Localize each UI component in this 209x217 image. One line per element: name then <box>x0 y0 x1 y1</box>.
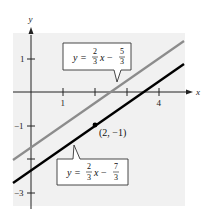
x-tick-label-4: 4 <box>157 98 162 108</box>
callout-top-num1: 2 <box>93 47 97 56</box>
x-tick-label-1: 1 <box>61 98 66 108</box>
callout-bottom-den2: 3 <box>114 173 118 182</box>
callout-top-den1: 3 <box>93 57 97 66</box>
point-label: (2, −1) <box>99 127 126 139</box>
y-axis-label: y <box>28 14 33 24</box>
callout-bottom-lhs: y = <box>66 167 81 178</box>
callout-top-num2: 5 <box>120 47 124 56</box>
callout-bottom-num1: 2 <box>87 162 91 171</box>
callout-top-var: x <box>99 52 105 63</box>
callout-top-den2: 3 <box>120 57 124 66</box>
x-axis-arrow-icon <box>186 90 193 95</box>
callout-bottom-op: − <box>101 167 107 178</box>
x-axis-label: x <box>195 87 200 97</box>
callout-bottom-den1: 3 <box>87 173 91 182</box>
y-tick-label-m1: −1 <box>14 121 24 131</box>
chart: 1 4 x 1 −1 −3 y (2, −1) y = 2 3 x − 5 3 … <box>0 0 209 217</box>
y-axis-arrow-icon <box>29 27 34 34</box>
callout-top-lhs: y = <box>72 52 87 63</box>
y-tick-label-m3: −3 <box>14 188 24 198</box>
callout-bottom-num2: 7 <box>114 162 118 171</box>
point-marker <box>93 123 98 128</box>
callout-bottom-var: x <box>93 167 99 178</box>
callout-top-op: − <box>107 52 113 63</box>
y-tick-label-1: 1 <box>20 54 25 64</box>
